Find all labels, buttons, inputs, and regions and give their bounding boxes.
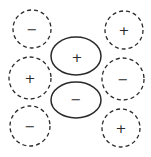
sign-label: −	[118, 72, 129, 87]
central-lobe-top: +	[51, 37, 101, 75]
dashed-circle-mid-left: +	[9, 57, 51, 99]
sign-label: +	[116, 121, 127, 136]
sign-label: −	[27, 22, 38, 37]
sign-label: +	[119, 23, 130, 38]
dashed-circle-bottom-right: +	[102, 109, 140, 147]
dashed-circle-top-left: −	[13, 10, 51, 48]
sign-label: −	[71, 92, 82, 107]
orbital-diagram: − + + − − + + −	[0, 0, 151, 157]
sign-label: +	[25, 71, 36, 86]
dashed-circle-top-right: +	[105, 11, 143, 49]
sign-label: −	[25, 119, 36, 134]
dashed-circle-bottom-left: −	[10, 106, 50, 146]
sign-label: +	[72, 50, 83, 65]
central-lobe-bottom: −	[51, 82, 101, 118]
dashed-circle-mid-right: −	[102, 58, 144, 100]
